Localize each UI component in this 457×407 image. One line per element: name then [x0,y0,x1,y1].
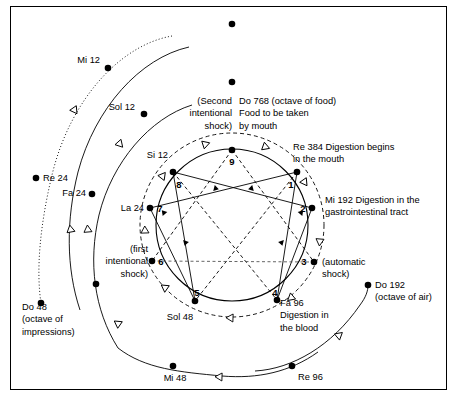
enneagram-point-dots [147,147,318,305]
label-second-shock: (Secondintentionalshock) [190,96,232,131]
hexad-line-1-4 [277,172,297,300]
dot-re96 [289,363,296,370]
arrow-inner-top-right [262,142,271,152]
arrow-ring3-right-low [334,329,345,340]
dashed-line-9-6 [152,150,232,261]
arrow-inner-upper-right [300,178,311,188]
outer-ring-arcs [39,36,368,377]
arrow-ring2-bottom [215,373,222,381]
label-automatic-shock: (automaticshock) [322,257,366,279]
label-re24: Re 24 [43,173,68,183]
arrow-ring2-lower-left [112,318,122,329]
enneagram-dot-5 [192,298,199,305]
dashed-line-8-4 [173,172,277,300]
enneagram-dot-7 [147,205,154,212]
arrow-inner-bottom [226,314,233,322]
label-mi192: Mi 192 Digestion in thegastrointestinal … [325,195,420,217]
middle-ring-arc-bottom [118,348,318,377]
enneagram-dot-3 [311,259,318,266]
enneagram-number-6: 6 [158,256,163,267]
dot-re24 [33,175,40,182]
arrow-inner-left-mid [141,226,149,233]
inner-line-arrowheads [159,185,305,247]
food-diagram-figure: 912345678 Do 768 (octave of food)Food to… [0,0,457,407]
label-first-shock: (firstintentionalshock) [106,244,149,279]
arrow-inner-upper-left [158,170,169,180]
hexad-line-8-5 [173,172,195,301]
enneagram-point-numbers: 912345678 [157,156,306,298]
enneagram-hexad-lines [150,172,312,301]
enneagram-number-3: 3 [301,256,306,267]
dot-sol12 [141,111,148,118]
enneagram-dot-9 [229,147,236,154]
dot-mi48 [170,363,177,370]
dot-fa24 [89,191,96,198]
hexad-line-2-4 [277,208,312,300]
label-do768: Do 768 (octave of food)Food to be takenb… [239,96,336,131]
enneagram-number-4: 4 [272,287,278,298]
enneagram-dot-2 [309,205,316,212]
label-do48: Do 48(octave ofimpressions) [22,302,75,337]
enneagram-number-5: 5 [194,287,200,298]
label-sol12: Sol 12 [109,102,135,112]
arrow-ring2-left [83,225,92,233]
enneagram-number-8: 8 [176,179,181,190]
enneagram-canvas: 912345678 Do 768 (octave of food)Food to… [0,0,457,407]
arrow-inner-top-left [202,139,211,149]
enneagram-dot-1 [294,169,301,176]
enneagram-dot-6 [149,258,156,265]
arrowhead-inner-d [278,240,285,247]
enneagram-dot-8 [170,169,177,176]
enneagram-number-9: 9 [229,156,234,167]
arrow-ring2-upper [115,139,126,150]
arrow-ring1-mid-left [70,106,81,116]
label-fa96: Fa 96Digestion inthe blood [280,298,329,333]
dot-top-outer [229,21,236,28]
label-mi12: Mi 12 [77,55,100,65]
label-fa24: Fa 24 [62,188,86,198]
dot-ring2-left [93,281,100,288]
label-re384: Re 384 Digestion beginsin the mouth [293,142,395,164]
arrow-ring1-upper-left [66,224,75,232]
dot-top-inner [229,79,236,86]
dot-do192 [365,282,372,289]
enneagram-number-7: 7 [157,203,162,214]
enneagram-number-1: 1 [288,179,294,190]
label-re96: Re 96 [298,372,323,382]
label-la24: La 24 [121,203,144,213]
label-sol48: Sol 48 [167,312,193,322]
enneagram-number-2: 2 [300,203,305,214]
label-mi48: Mi 48 [164,373,187,383]
label-do192: Do 192(octave of air) [375,280,432,302]
label-si12: Si 12 [147,150,168,160]
dot-mi12 [105,65,112,72]
